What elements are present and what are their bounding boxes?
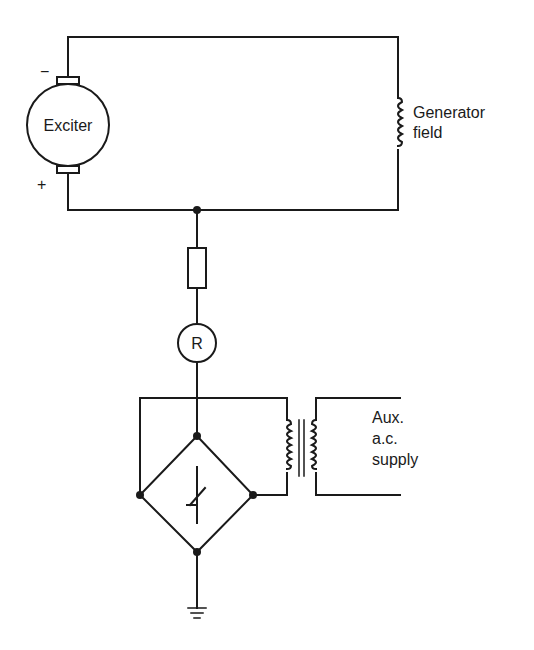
aux-label-2: a.c. bbox=[372, 430, 398, 447]
bridge-node-left bbox=[136, 491, 144, 499]
exciter-negative-label: − bbox=[40, 63, 49, 80]
exciter-label: Exciter bbox=[44, 117, 94, 134]
wire-bridge-right bbox=[253, 473, 287, 495]
aux-label-1: Aux. bbox=[372, 409, 404, 426]
generator-field-label-2: field bbox=[413, 124, 442, 141]
transformer bbox=[287, 420, 316, 476]
relay-label: R bbox=[191, 335, 203, 352]
resistor bbox=[188, 248, 206, 288]
exciter: Exciter bbox=[27, 77, 109, 173]
generator-field-label-1: Generator bbox=[413, 104, 486, 121]
exciter-positive-label: + bbox=[37, 176, 46, 193]
circuit-diagram: Exciter − + Generator field R Aux. a.c. … bbox=[0, 0, 534, 650]
wire-aux-bottom bbox=[316, 473, 400, 495]
bridge-node-top bbox=[193, 432, 201, 440]
wire-bridge-loop bbox=[140, 398, 287, 420]
aux-label-3: supply bbox=[372, 451, 418, 468]
ground-icon bbox=[188, 608, 206, 618]
wire-top bbox=[68, 37, 398, 98]
wire-right bbox=[68, 150, 398, 210]
thyristor-icon bbox=[187, 467, 205, 523]
bridge-node-right bbox=[249, 491, 257, 499]
generator-field-coil bbox=[398, 98, 402, 146]
